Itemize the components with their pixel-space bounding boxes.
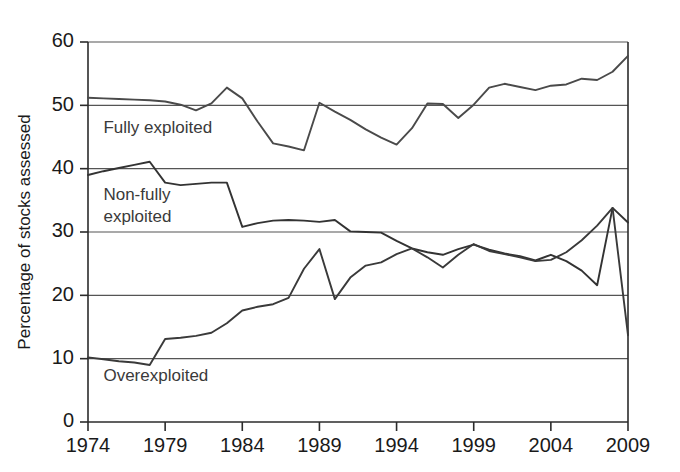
- series-annotations: Fully exploitedNon-fullyexploitedOverexp…: [103, 118, 212, 385]
- y-axis-title-text: Percentage of stocks assessed: [15, 114, 34, 349]
- y-axis-tick-labels: 0102030405060: [52, 29, 74, 431]
- series-label-1: Non-fullyexploited: [103, 185, 171, 226]
- x-tick-label-1994: 1994: [374, 434, 419, 456]
- y-tick-label-0: 0: [63, 409, 74, 431]
- x-tick-label-1989: 1989: [297, 434, 342, 456]
- y-tick-label-50: 50: [52, 93, 74, 115]
- y-tick-label-40: 40: [52, 156, 74, 178]
- x-tick-label-1999: 1999: [451, 434, 496, 456]
- x-tick-label-1974: 1974: [66, 434, 111, 456]
- y-tick-label-20: 20: [52, 283, 74, 305]
- x-tick-label-2004: 2004: [529, 434, 574, 456]
- chart-figure: 0102030405060 19741979198419891994199920…: [0, 0, 680, 472]
- y-tick-label-30: 30: [52, 219, 74, 241]
- line-chart: 0102030405060 19741979198419891994199920…: [0, 0, 680, 472]
- x-tick-label-2009: 2009: [606, 434, 651, 456]
- x-tick-label-1979: 1979: [143, 434, 188, 456]
- series-label-0: Fully exploited: [103, 118, 212, 137]
- y-tick-label-10: 10: [52, 346, 74, 368]
- series-label-2: Overexploited: [103, 366, 208, 385]
- y-tick-label-60: 60: [52, 29, 74, 51]
- x-axis-tick-labels: 19741979198419891994199920042009: [66, 434, 651, 456]
- x-tick-label-1984: 1984: [220, 434, 265, 456]
- y-axis-title: Percentage of stocks assessed: [15, 114, 34, 349]
